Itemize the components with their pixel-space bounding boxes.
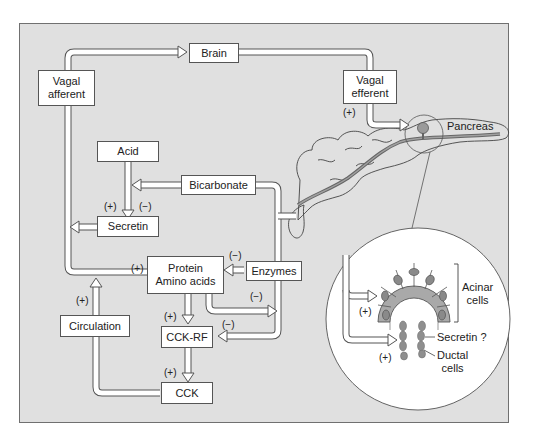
node-cck: CCK [161,382,213,404]
sign-enzymes-protein: (−) [229,249,242,262]
sign-acinar: (+) [359,305,372,318]
node-bicarbonate: Bicarbonate [181,175,256,195]
sign-protein-plus: (+) [131,262,144,275]
node-label: Vagal afferent [48,75,85,101]
sign-protein-out: (−) [250,290,263,303]
sign-vagal-efferent: (+) [343,106,356,119]
node-acid: Acid [97,141,159,162]
node-enzymes: Enzymes [246,261,302,281]
node-label: Protein Amino acids [156,262,216,288]
sign-enzymes-cckrf: (−) [222,318,235,331]
node-label: Enzymes [251,265,296,278]
acinus-zoom-circle [326,228,510,410]
node-vagal-afferent: Vagal afferent [38,70,95,106]
sign-cckrf-cck: (+) [164,366,177,379]
node-label: Secretin [108,220,148,233]
node-label: CCK [175,387,198,400]
node-label: Bicarbonate [189,179,248,192]
node-cck-rf: CCK-RF [161,326,213,348]
sign-ductal: (+) [379,351,392,364]
node-label: Acid [117,145,138,158]
sign-bicarb-secretin: (−) [139,200,152,213]
node-protein-amino-acids: Protein Amino acids [147,256,224,294]
label-pancreas: Pancreas [447,120,493,133]
node-circulation: Circulation [60,315,130,337]
node-vagal-efferent: Vagal efferent [343,70,397,104]
node-label: Brain [201,47,227,60]
pancreas-organ-illustration [289,115,509,245]
sign-circulation: (+) [76,294,89,307]
node-secretin: Secretin [97,216,159,237]
sign-protein-cckrf: (+) [164,310,177,323]
label-ductal-cells: Ductal cells [437,349,468,375]
node-label: Circulation [69,320,121,333]
label-acinar-cells: Acinar cells [462,281,493,307]
label-secretin-question: Secretin ? [437,331,487,344]
sign-acid-secretin: (+) [104,200,117,213]
node-brain: Brain [189,43,239,63]
node-label: CCK-RF [166,331,208,344]
node-label: Vagal efferent [351,74,388,100]
